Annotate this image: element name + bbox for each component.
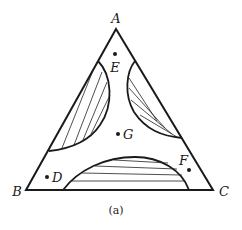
vertex-label-c: C [219, 184, 229, 199]
ternary-diagram: A B C E G D F (a) [0, 0, 242, 230]
point-f-dot [187, 168, 191, 172]
point-d-dot [45, 175, 49, 179]
point-e-dot [113, 52, 117, 56]
figure-caption: (a) [108, 204, 123, 217]
tie-line [129, 88, 165, 128]
tie-line [95, 166, 177, 169]
point-label-d: D [51, 170, 63, 185]
point-g-dot [116, 132, 120, 136]
region-bc [63, 157, 189, 190]
point-label-e: E [109, 60, 120, 75]
point-label-g: G [123, 127, 133, 142]
region-ab-boundary [49, 61, 110, 151]
vertex-label-b: B [11, 184, 22, 199]
region-ab [49, 61, 110, 151]
vertex-label-a: A [110, 11, 120, 26]
tie-line [82, 173, 182, 175]
point-label-f: F [178, 153, 189, 168]
